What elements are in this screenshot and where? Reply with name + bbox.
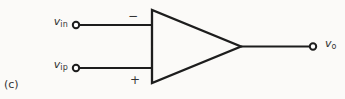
noninverting-sign: +	[130, 74, 140, 86]
noninverting-input-label: vip	[44, 59, 68, 70]
inverting-sign: −	[128, 10, 138, 22]
opamp-triangle	[152, 10, 241, 83]
output-terminal	[310, 43, 316, 49]
inverting-input-terminal	[73, 22, 79, 28]
output-label: vo	[325, 38, 337, 49]
inverting-input-label: vin	[44, 16, 68, 27]
figure-part-label: (c)	[4, 79, 19, 90]
noninverting-input-label-subscript: ip	[60, 63, 68, 72]
opamp-schematic	[0, 0, 345, 99]
opamp-circuit-figure: vin vip vo − + (c)	[0, 0, 345, 99]
output-label-subscript: o	[332, 42, 337, 51]
inverting-input-label-subscript: in	[60, 20, 68, 29]
noninverting-input-terminal	[73, 65, 79, 71]
